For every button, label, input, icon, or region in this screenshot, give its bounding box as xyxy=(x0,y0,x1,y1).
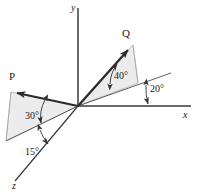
diagram-canvas: x y z P Q 30° 15° 40° 20° xyxy=(0,0,197,192)
axis-label-y: y xyxy=(70,2,76,13)
angle-arc-15 xyxy=(40,130,48,144)
vector-label-P: P xyxy=(9,70,15,82)
angle-label-30: 30° xyxy=(25,110,39,121)
axis-label-x: x xyxy=(182,109,188,120)
angle-arc-20 xyxy=(146,85,148,104)
angle-label-20: 20° xyxy=(150,83,164,94)
vector-diagram-figure: x y z P Q 30° 15° 40° 20° xyxy=(0,0,197,192)
vector-label-Q: Q xyxy=(122,27,130,39)
angle-label-15: 15° xyxy=(25,146,39,157)
angle-label-40: 40° xyxy=(114,70,128,81)
axis-label-z: z xyxy=(11,180,16,191)
